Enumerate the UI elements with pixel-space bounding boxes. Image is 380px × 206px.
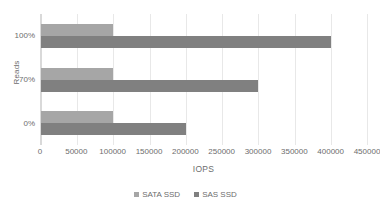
bar-sas-ssd — [41, 36, 331, 48]
legend-item[interactable]: SATA SSD — [134, 190, 180, 199]
gridline — [367, 14, 368, 145]
y-axis-tick-label: 0% — [10, 101, 38, 145]
plot-area — [40, 14, 367, 145]
x-axis-tick-label: 50000 — [65, 147, 87, 156]
x-axis-tick-labels: 0500001000001500002000002500003000003500… — [40, 147, 367, 159]
bar-group — [41, 101, 367, 145]
x-axis-tick-label: 450000 — [354, 147, 380, 156]
bar-sas-ssd — [41, 80, 258, 92]
x-axis-tick-label: 100000 — [99, 147, 126, 156]
x-axis-title: IOPS — [40, 164, 367, 174]
x-axis-tick-label: 250000 — [208, 147, 235, 156]
legend-label: SAS SSD — [202, 190, 237, 199]
bar-group — [41, 14, 367, 58]
x-axis-tick-label: 200000 — [172, 147, 199, 156]
y-axis-tick-label: 100% — [10, 14, 38, 58]
bar-sata-ssd — [41, 68, 113, 80]
chart-legend: SATA SSDSAS SSD — [0, 190, 371, 199]
bar-sas-ssd — [41, 123, 186, 135]
legend-item[interactable]: SAS SSD — [194, 190, 237, 199]
x-axis-tick-label: 0 — [38, 147, 42, 156]
x-axis-tick-label: 150000 — [136, 147, 163, 156]
bar-sata-ssd — [41, 24, 113, 36]
x-axis-tick-label: 300000 — [245, 147, 272, 156]
legend-swatch-icon — [134, 192, 139, 197]
y-axis-tick-label: 70% — [10, 58, 38, 102]
legend-swatch-icon — [194, 192, 199, 197]
bar-groups — [41, 14, 367, 145]
bar-sata-ssd — [41, 111, 113, 123]
x-axis-tick-label: 350000 — [281, 147, 308, 156]
y-axis-category-labels: 100% 70% 0% — [10, 14, 38, 145]
x-axis-tick-label: 400000 — [317, 147, 344, 156]
bar-group — [41, 58, 367, 102]
legend-label: SATA SSD — [142, 190, 180, 199]
